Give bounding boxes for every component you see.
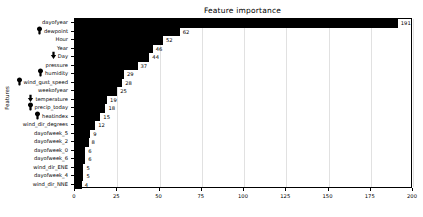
y-axis-tick-label: dayofweek_4 [34, 171, 68, 180]
y-axis-tick-label: wind_dir_ENE [33, 163, 68, 172]
x-axis-tick-mark [74, 188, 75, 191]
feature-importance-figure: Feature importance Features dayofyeardew… [0, 0, 423, 217]
bar[interactable] [75, 113, 100, 122]
bar[interactable] [75, 147, 85, 156]
bar-value-label: 4 [82, 182, 88, 188]
bar-row[interactable]: 9 [75, 130, 411, 139]
y-axis-tick-label: Year [57, 44, 68, 53]
y-axis-tick-labels: dayofyeardewpointHourYearDaypressurehumi… [0, 18, 72, 188]
bar-value-label: 19 [107, 97, 117, 103]
bar-value-label: 12 [95, 122, 105, 128]
bar-value-label: 37 [138, 63, 148, 69]
x-axis-tick-label: 0 [72, 193, 75, 199]
y-axis-tick-label: dayofyear [42, 18, 68, 27]
bar-row[interactable]: 46 [75, 45, 411, 54]
x-axis-tick-label: 125 [280, 193, 290, 199]
bar-value-label: 5 [83, 173, 89, 179]
bar[interactable] [75, 87, 117, 96]
y-axis-tick-label: wind_dir_NNE [33, 180, 68, 189]
bar[interactable] [75, 36, 163, 45]
y-axis-tick-label: Hour [56, 35, 69, 44]
bar[interactable] [75, 121, 95, 130]
y-axis-tick-label: wind_dir_degrees [23, 120, 68, 129]
x-axis-tick-mark [243, 188, 244, 191]
y-axis-tick-label: Day [58, 52, 68, 61]
x-axis-tick-label: 150 [323, 193, 333, 199]
bar-value-label: 46 [153, 46, 163, 52]
bar[interactable] [75, 130, 90, 139]
bar[interactable] [75, 70, 124, 79]
bar[interactable] [75, 155, 85, 164]
x-axis-tick-mark [201, 188, 202, 191]
bar-row[interactable]: 8 [75, 138, 411, 147]
y-axis-tick-label: temperature [35, 95, 68, 104]
bar-value-label: 28 [122, 80, 132, 86]
y-axis-tick-label: dayofweek_6 [34, 154, 68, 163]
x-axis: 0255075100125150175200 [74, 188, 412, 212]
x-axis-tick-mark [370, 188, 371, 191]
bar[interactable] [75, 19, 398, 28]
bar[interactable] [75, 28, 180, 37]
bar-value-label: 5 [83, 165, 89, 171]
bar[interactable] [75, 172, 83, 181]
bar-series: 1916252464437292825191815129866554 [75, 19, 411, 187]
bar-value-label: 15 [100, 114, 110, 120]
bar-value-label: 191 [398, 20, 411, 26]
bar-row[interactable]: 191 [75, 19, 411, 28]
y-axis-tick-label: dewpoint [44, 27, 68, 36]
bar-row[interactable]: 25 [75, 87, 411, 96]
x-axis-tick-label: 100 [238, 193, 248, 199]
bar-value-label: 25 [117, 88, 127, 94]
x-axis-tick-label: 50 [155, 193, 162, 199]
bar[interactable] [75, 53, 149, 62]
x-axis-tick-label: 175 [365, 193, 375, 199]
bar-row[interactable]: 12 [75, 121, 411, 130]
y-axis-tick-label: humidity [45, 69, 68, 78]
bar[interactable] [75, 45, 153, 54]
bar-value-label: 44 [149, 54, 159, 60]
y-axis-tick-label: precip_today [35, 103, 68, 112]
bar-value-label: 6 [85, 148, 91, 154]
bar[interactable] [75, 138, 89, 147]
x-axis-tick-mark [159, 188, 160, 191]
bar[interactable] [75, 164, 83, 173]
y-axis-tick-label: pressure [46, 61, 68, 70]
bar-value-label: 8 [89, 139, 95, 145]
bar-value-label: 62 [180, 29, 190, 35]
bar-row[interactable]: 5 [75, 164, 411, 173]
x-axis-tick-label: 200 [407, 193, 417, 199]
bar-value-label: 18 [105, 105, 115, 111]
bar-row[interactable]: 15 [75, 113, 411, 122]
x-axis-tick-label: 25 [113, 193, 120, 199]
bar-row[interactable]: 37 [75, 62, 411, 71]
y-axis-tick-label: dayofweek_2 [34, 137, 68, 146]
bar-row[interactable]: 28 [75, 79, 411, 88]
bar-row[interactable]: 18 [75, 104, 411, 113]
bar-row[interactable]: 6 [75, 155, 411, 164]
bar-row[interactable]: 19 [75, 96, 411, 105]
bar[interactable] [75, 79, 122, 88]
bar-row[interactable]: 62 [75, 28, 411, 37]
bar-value-label: 52 [163, 37, 173, 43]
x-axis-tick-mark [412, 188, 413, 191]
bar-row[interactable]: 52 [75, 36, 411, 45]
bar[interactable] [75, 96, 107, 105]
bar-row[interactable]: 6 [75, 147, 411, 156]
bar-row[interactable]: 5 [75, 172, 411, 181]
bar-value-label: 29 [124, 71, 134, 77]
x-axis-tick-mark [116, 188, 117, 191]
bar-value-label: 9 [90, 131, 96, 137]
grid-line [413, 19, 414, 187]
y-axis-tick-label: wind_gust_speed [24, 78, 68, 87]
plot-area: 1916252464437292825191815129866554 [74, 18, 412, 188]
y-axis-tick-label: weekofyear [38, 86, 68, 95]
bar-value-label: 6 [85, 156, 91, 162]
x-axis-tick-mark [285, 188, 286, 191]
bar-row[interactable]: 29 [75, 70, 411, 79]
bar[interactable] [75, 62, 138, 71]
y-axis-tick-label: dayofweek_5 [34, 129, 68, 138]
y-axis-tick-label: dayofweek_0 [34, 146, 68, 155]
bar-row[interactable]: 44 [75, 53, 411, 62]
bar[interactable] [75, 104, 105, 113]
x-axis-tick-mark [328, 188, 329, 191]
